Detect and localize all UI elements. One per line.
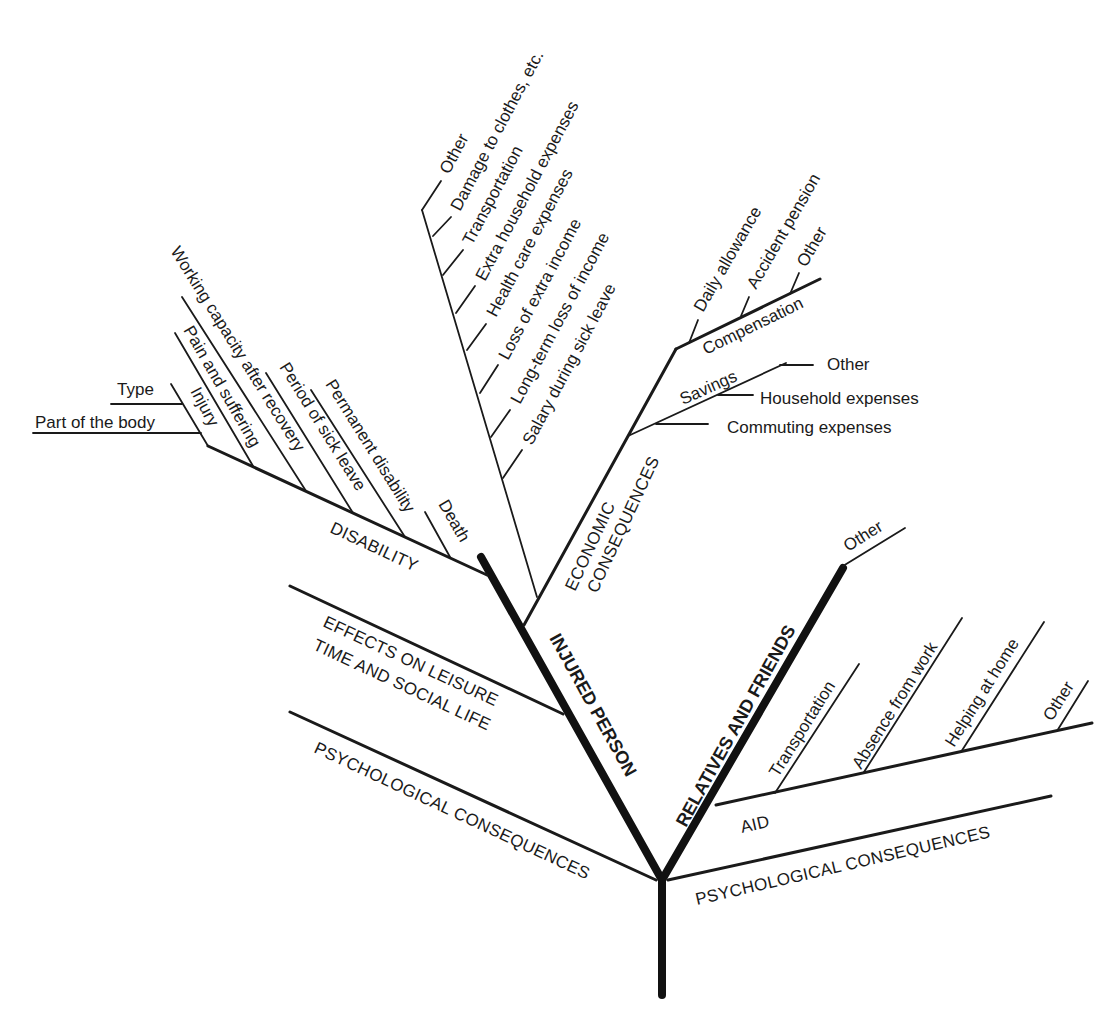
compensation-label: Compensation <box>699 293 806 358</box>
savings-label: Savings <box>677 367 740 409</box>
aid-transport-label: Transportation <box>765 678 839 780</box>
leisure-branch: EFFECTS ON LEISURE TIME AND SOCIAL LIFE <box>290 586 563 734</box>
relatives-label: RELATIVES AND FRIENDS <box>672 622 800 830</box>
disability-branch: DISABILITY Injury Type Part of the body … <box>33 243 487 576</box>
daily-allowance-label: Daily allowance <box>690 203 766 315</box>
aid-label: AID <box>739 812 772 837</box>
aid-absence-label: Absence from work <box>848 638 941 772</box>
aid-transport-line <box>775 664 859 793</box>
aid-helping-label: Helping at home <box>941 635 1023 750</box>
cost-tick-health <box>467 324 486 350</box>
consequence-tree-diagram: INJURED PERSON RELATIVES AND FRIENDS Oth… <box>0 0 1119 1017</box>
disability-label: DISABILITY <box>327 518 421 575</box>
cost-tick-damage <box>433 217 451 236</box>
psychological-injured-label: PSYCHOLOGICAL CONSEQUENCES <box>311 738 593 883</box>
savings-other-label: Other <box>827 355 870 374</box>
cost-tick-salary <box>503 450 522 478</box>
part-of-body-label: Part of the body <box>35 413 156 432</box>
cost-tick-long-term <box>491 410 510 437</box>
cost-tick-other <box>422 181 441 210</box>
cost-tick-transport <box>443 250 463 275</box>
cost-tick-household <box>456 286 475 313</box>
household-expenses-label: Household expenses <box>760 389 919 408</box>
relatives-other-label: Other <box>840 517 886 556</box>
psychological-relatives-branch: PSYCHOLOGICAL CONSEQUENCES <box>668 796 1051 909</box>
aid-other-label: Other <box>1039 678 1078 724</box>
type-label: Type <box>117 380 154 399</box>
cost-tick-extra-income <box>480 365 498 393</box>
compensation-other-label: Other <box>793 223 831 270</box>
cost-items: Other Damage to clothes, etc. Transporta… <box>422 47 620 478</box>
relatives-branch: RELATIVES AND FRIENDS Other <box>662 517 905 880</box>
commuting-label: Commuting expenses <box>727 418 891 437</box>
